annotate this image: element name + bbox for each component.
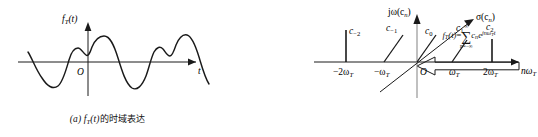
jomega-axis-label-tail: ) — [408, 7, 411, 18]
leader-c-1 — [452, 40, 467, 62]
f-axis — [85, 22, 92, 96]
caption-a: (a) fT(t)的时域表达 — [0, 112, 215, 125]
label-c-0-sub: 0 — [429, 30, 433, 37]
frequency-domain-plot: jω(cn) σ(cn) nωT c−2 c−1 c0 c1 — [300, 0, 538, 112]
time-domain-plot: O t fT(t) — [0, 0, 215, 112]
f-axis-label: fT(t) — [62, 14, 77, 25]
label-c-minus-1-sub: −1 — [390, 27, 397, 34]
tick-label-minus-2-omega-main: −2ω — [333, 67, 349, 77]
tick-label-minus-2-omega-sub: T — [349, 71, 354, 78]
label-c-1: c1 — [456, 23, 464, 34]
tick-label-omega: ωT — [449, 67, 461, 78]
label-c-2: c2 — [486, 22, 494, 33]
frequency-domain-panel: jω(cn) σ(cn) nωT c−2 c−1 c0 c1 — [300, 0, 538, 137]
tick-label-omega-sub: T — [456, 71, 461, 78]
label-c-minus-2-sub: −2 — [353, 30, 360, 37]
label-c-2-sub: 2 — [490, 26, 493, 33]
nomega-axis-label-sub: T — [532, 70, 537, 77]
caption-a-mid: (t) — [90, 114, 99, 124]
tick-label-minus-omega-sub: T — [386, 71, 391, 78]
label-c-minus-1: c−1 — [386, 23, 397, 34]
f-axis-label-arg: (t) — [68, 14, 77, 25]
label-c-0: c0 — [425, 26, 433, 37]
jomega-axis — [413, 14, 420, 98]
time-domain-panel: O t fT(t) (a) fT(t)的时域表达 — [0, 0, 215, 137]
tick-label-2-omega-main: 2ω — [483, 67, 494, 77]
nomega-axis-label-main: nω — [521, 66, 533, 76]
caption-a-prefix: (a) f — [70, 114, 87, 124]
svg-text:fT(t): fT(t) — [62, 14, 77, 25]
tick-label-minus-2-omega: −2ωT — [333, 67, 354, 78]
origin-label-b: O — [420, 67, 427, 77]
fourier-series-figure: O t fT(t) (a) fT(t)的时域表达 fT(t)=∞∑n=−∞cne… — [0, 0, 538, 137]
tick-label-2-omega-sub: T — [494, 71, 499, 78]
nomega-axis-label: nωT — [521, 66, 537, 77]
caption-a-tail: 的时域表达 — [100, 114, 146, 124]
sigma-axis-label-tail: ) — [492, 12, 495, 23]
t-axis-label: t — [198, 66, 201, 76]
label-c-minus-2: c−2 — [349, 26, 360, 37]
tick-label-2-omega: 2ωT — [483, 67, 499, 78]
jomega-axis-label: jω(cn) — [387, 7, 411, 18]
label-c-1-sub: 1 — [460, 27, 463, 34]
tick-label-minus-omega-main: −ω — [374, 67, 386, 77]
leader-c-0 — [417, 35, 436, 62]
t-axis — [18, 59, 196, 66]
jomega-axis-label-main: jω(c — [387, 7, 404, 18]
leader-c-minus-1 — [384, 35, 403, 62]
origin-label-a: O — [77, 67, 84, 77]
tick-label-minus-omega: −ωT — [374, 67, 391, 78]
